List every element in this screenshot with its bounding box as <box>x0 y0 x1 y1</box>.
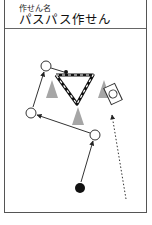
move-arrow <box>33 72 44 107</box>
cone-icon <box>72 107 84 125</box>
move-arrow <box>81 141 93 182</box>
run-line <box>51 68 64 72</box>
player-icon <box>41 61 51 71</box>
dribble-arrow <box>112 115 126 199</box>
goal-icon <box>104 83 122 104</box>
player-filled-icon <box>75 183 85 193</box>
play-diagram <box>0 0 152 225</box>
cone-icon <box>46 80 58 98</box>
player-icon <box>26 108 36 118</box>
player-icon <box>90 130 100 140</box>
pass-triangle <box>56 75 93 104</box>
ball-icon <box>64 70 68 74</box>
